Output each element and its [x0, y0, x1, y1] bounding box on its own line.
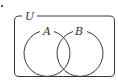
venn-diagram: U A B [0, 0, 118, 80]
set-a-label: A [42, 25, 51, 38]
set-b-label: B [74, 25, 83, 38]
universe-label: U [25, 10, 35, 23]
universe-rectangle [15, 16, 115, 77]
